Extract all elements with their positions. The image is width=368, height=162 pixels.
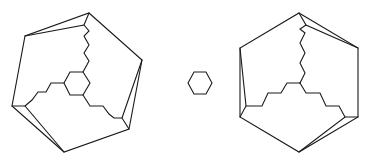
core-hexagon: [64, 72, 90, 95]
zigzag-chain: [300, 25, 306, 83]
zigzag-chain: [25, 83, 64, 106]
zigzag-chain: [83, 25, 89, 72]
zigzag-chain: [300, 83, 345, 117]
cage-facet-edge: [122, 60, 142, 129]
zigzag-chain: [83, 95, 122, 118]
right-cage-figure: [240, 13, 358, 152]
cage-facet-edge: [240, 48, 246, 117]
free-hexagon-figure: [188, 72, 212, 94]
molecular-cage-diagram: [0, 0, 368, 162]
hexagon-ring: [188, 72, 212, 94]
left-cage-figure: [12, 13, 142, 152]
zigzag-chain: [246, 83, 300, 106]
outer-cage-outline: [12, 13, 142, 152]
